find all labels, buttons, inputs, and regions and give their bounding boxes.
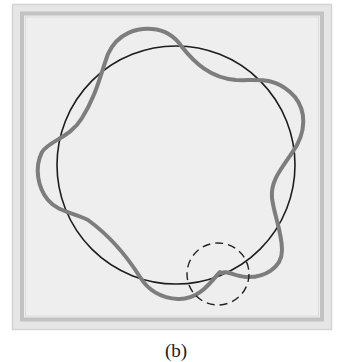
frame-inner-line [26, 17, 319, 316]
figure-caption: (b) [0, 340, 352, 362]
standing-wave-orbit-diagram [0, 0, 352, 362]
